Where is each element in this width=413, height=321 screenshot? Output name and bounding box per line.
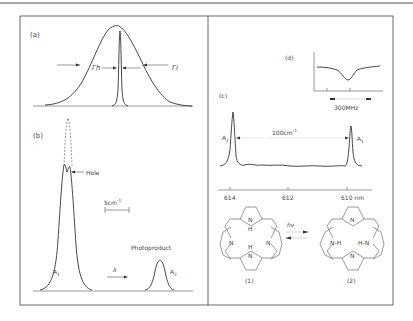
panel-c-label: (c)	[219, 92, 227, 99]
n-atom-top: N	[350, 216, 355, 223]
panel-a-label: (a)	[30, 31, 40, 39]
molecule-1-label: (1)	[245, 277, 254, 284]
arrow-head-icon	[76, 64, 80, 67]
h-atom-bottom: H	[248, 243, 253, 250]
arrow-right-icon	[303, 231, 309, 234]
axis-label-614: 614	[224, 194, 236, 201]
photoreaction-arrows: hν	[285, 221, 309, 240]
arrow-head-icon	[71, 171, 75, 174]
scale-marker-left	[330, 98, 335, 100]
hv-label: hν	[287, 221, 295, 228]
arrow-left-icon	[236, 137, 240, 140]
n-atom-bottom: N	[350, 252, 355, 259]
axis-label-612: 612	[282, 194, 294, 201]
n-atom-top: N	[248, 216, 253, 223]
peak-a2-label: A2	[170, 268, 177, 277]
nh-group-left: N-H	[330, 239, 341, 246]
scale-5cm-label: 5cm-1	[104, 198, 122, 206]
separation-label: 100cm-1	[272, 128, 297, 136]
panel-b-label: (b)	[33, 132, 43, 140]
peak-a2-curve	[145, 260, 174, 290]
arrow-left-icon	[285, 237, 291, 240]
hole-profile-curve	[317, 66, 380, 80]
axis-label-610: 610 nm	[341, 194, 364, 201]
peak-a1-label: A1	[53, 268, 60, 277]
hole-label: Hole	[86, 169, 100, 176]
arrow-head-icon	[122, 67, 126, 70]
panel-a: (a) Γh Γi	[30, 26, 193, 106]
original-peak-dashed	[64, 118, 72, 166]
gamma-h-label: Γh	[92, 64, 100, 72]
n-atom-left: N	[229, 239, 234, 246]
arrow-right-icon	[345, 137, 349, 140]
arrow-head-icon	[113, 67, 117, 70]
panel-d: (d) 300MHz	[285, 52, 383, 111]
n-atom-bottom: N	[248, 252, 253, 259]
pyrrole-ring-right	[373, 227, 384, 259]
n-atom-right: N	[266, 239, 271, 246]
photoproduct-label: Photoproduct	[131, 244, 172, 252]
porphine-spectrum-curve	[220, 112, 362, 166]
gamma-i-label: Γi	[172, 64, 178, 72]
hn-group-right: H-N	[358, 239, 369, 246]
molecule-1: N H H N N N (1)	[220, 207, 282, 284]
h-atom-top: H	[248, 225, 253, 232]
panel-d-label: (d)	[285, 54, 294, 61]
molecule-2: N N N-H H-N (2)	[320, 207, 384, 284]
peak-a1-curve	[40, 165, 92, 290]
arrow-right-icon	[124, 276, 128, 279]
figure-frame	[20, 16, 393, 305]
figure-canvas: (a) Γh Γi (b) Hole 5cm-1	[0, 0, 413, 321]
panel-b: (b) Hole 5cm-1 A1 λ Photoproduct A2	[33, 118, 193, 291]
scale-marker-right	[366, 98, 371, 100]
molecule-2-label: (2)	[347, 277, 356, 284]
peak-a2-label: A2	[222, 134, 229, 143]
300mhz-label: 300MHz	[334, 104, 358, 111]
pyrrole-ring-right	[271, 227, 282, 259]
peak-a1-label: A1	[357, 135, 364, 144]
lambda-label: λ	[112, 266, 117, 273]
